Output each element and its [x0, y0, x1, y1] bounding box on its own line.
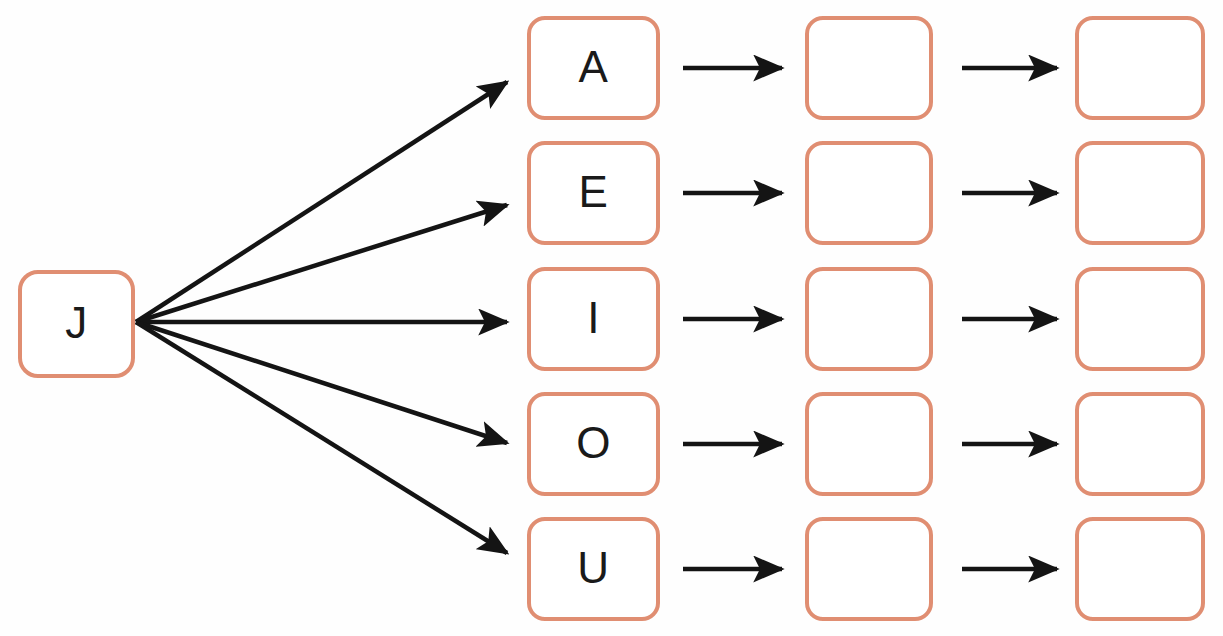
- node-blank-c1-r3[interactable]: [805, 267, 933, 371]
- edge-j-to-u: [136, 322, 507, 553]
- edge-j-to-o: [136, 322, 507, 443]
- node-letter-o-label: O: [576, 421, 611, 465]
- node-letter-u[interactable]: U: [527, 517, 660, 621]
- node-blank-c2-r3[interactable]: [1075, 267, 1205, 371]
- node-letter-e-label: E: [579, 170, 609, 214]
- node-blank-c1-r2[interactable]: [805, 141, 933, 245]
- node-letter-i[interactable]: I: [527, 267, 660, 371]
- node-letter-o[interactable]: O: [527, 392, 660, 496]
- node-letter-u-label: U: [577, 546, 609, 590]
- node-root-j-label: J: [65, 301, 88, 345]
- node-letter-i-label: I: [587, 296, 600, 340]
- diagram-canvas: J AEIOU: [0, 0, 1223, 636]
- node-letter-e[interactable]: E: [527, 141, 660, 245]
- node-blank-c2-r1[interactable]: [1075, 16, 1205, 120]
- node-blank-c2-r5[interactable]: [1075, 517, 1205, 621]
- node-blank-c1-r5[interactable]: [805, 517, 933, 621]
- node-blank-c2-r4[interactable]: [1075, 392, 1205, 496]
- edge-j-to-e: [136, 205, 507, 322]
- fan-edge-group: [136, 82, 507, 553]
- node-letter-a[interactable]: A: [527, 16, 660, 120]
- node-root-j[interactable]: J: [18, 270, 135, 378]
- edge-j-to-a: [136, 82, 507, 322]
- node-blank-c1-r1[interactable]: [805, 16, 933, 120]
- node-blank-c1-r4[interactable]: [805, 392, 933, 496]
- node-blank-c2-r2[interactable]: [1075, 141, 1205, 245]
- node-letter-a-label: A: [579, 45, 609, 89]
